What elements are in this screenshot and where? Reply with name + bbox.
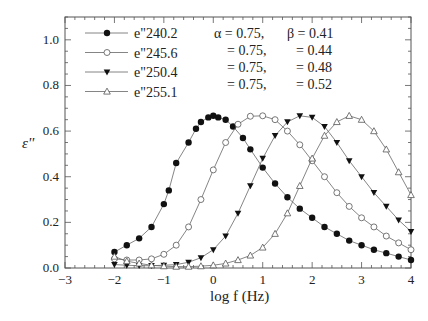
x-tick-label: 4: [408, 272, 415, 287]
legend-label: e"245.6: [134, 46, 177, 61]
x-tick-label: 2: [309, 272, 316, 287]
alpha-annotation: = 0.75,: [227, 77, 266, 92]
x-tick-label: −2: [108, 272, 122, 287]
beta-annotation: = 0.48: [296, 60, 332, 75]
x-tick-label: −1: [157, 272, 171, 287]
dielectric-loss-chart: −3−2−101234 0.00.20.40.60.81.0 e"240.2e"…: [0, 0, 428, 321]
y-axis-label: ε'': [22, 135, 35, 151]
parameter-annotations: α = 0.75,β = 0.41= 0.75,= 0.44= 0.75,= 0…: [214, 26, 334, 92]
legend-label: e"255.1: [134, 85, 177, 100]
y-tick-label: 0.0: [43, 260, 59, 275]
legend-label: e"240.2: [134, 26, 177, 41]
y-tick-label: 0.6: [43, 123, 60, 138]
beta-annotation: = 0.44: [296, 43, 332, 58]
legend-item: e"255.1: [85, 85, 177, 100]
legend-item: e"250.4: [85, 65, 177, 80]
y-tick-label: 0.4: [43, 169, 60, 184]
alpha-annotation: = 0.75,: [227, 60, 266, 75]
legend-item: e"240.2: [85, 26, 177, 41]
legend-label: e"250.4: [134, 65, 177, 80]
x-tick-label: −3: [58, 272, 72, 287]
y-tick-label: 1.0: [43, 32, 59, 47]
legend: e"240.2e"245.6e"250.4e"255.1: [85, 26, 177, 100]
x-tick-label: 1: [259, 272, 266, 287]
beta-annotation: = 0.52: [296, 77, 332, 92]
y-tick-labels: 0.00.20.40.60.81.0: [43, 32, 60, 275]
x-tick-label: 0: [210, 272, 217, 287]
x-axis-label: log f (Hz): [210, 288, 269, 305]
alpha-annotation: = 0.75,: [227, 43, 266, 58]
series-open-circle: [111, 113, 414, 263]
x-tick-labels: −3−2−101234: [58, 272, 415, 287]
y-tick-label: 0.2: [43, 214, 59, 229]
x-tick-label: 3: [358, 272, 365, 287]
series-open-triangle-up: [111, 112, 414, 269]
series-filled-circle: [111, 113, 414, 264]
alpha-annotation: α = 0.75,: [214, 26, 264, 41]
beta-annotation: β = 0.41: [287, 26, 334, 41]
legend-item: e"245.6: [85, 46, 177, 61]
y-tick-label: 0.8: [43, 77, 59, 92]
data-series: [111, 112, 414, 269]
